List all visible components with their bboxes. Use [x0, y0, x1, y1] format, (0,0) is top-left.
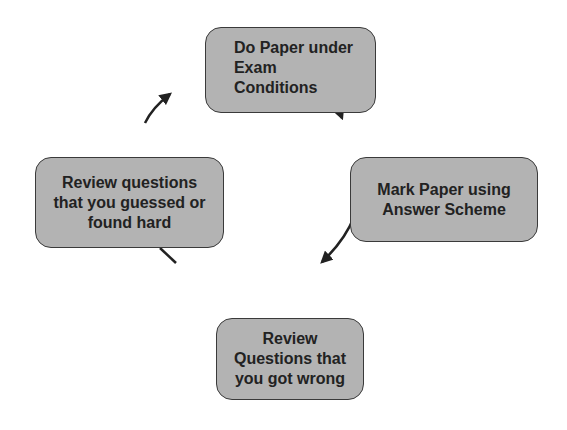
node-review-hard: Review questions that you guessed or fou… — [35, 157, 224, 248]
node-review-hard-label: Review questions that you guessed or fou… — [53, 173, 205, 233]
node-mark-paper: Mark Paper using Answer Scheme — [350, 157, 538, 242]
node-do-paper: Do Paper under Exam Conditions — [205, 27, 376, 113]
node-mark-paper-label: Mark Paper using Answer Scheme — [377, 180, 510, 220]
node-do-paper-label: Do Paper under Exam Conditions — [228, 38, 353, 98]
arrow-review-hard-to-exam — [145, 94, 170, 123]
arrow-review-wrong-to-review-hard — [160, 248, 176, 263]
node-review-wrong: Review Questions that you got wrong — [216, 318, 364, 400]
node-review-wrong-label: Review Questions that you got wrong — [234, 329, 346, 389]
